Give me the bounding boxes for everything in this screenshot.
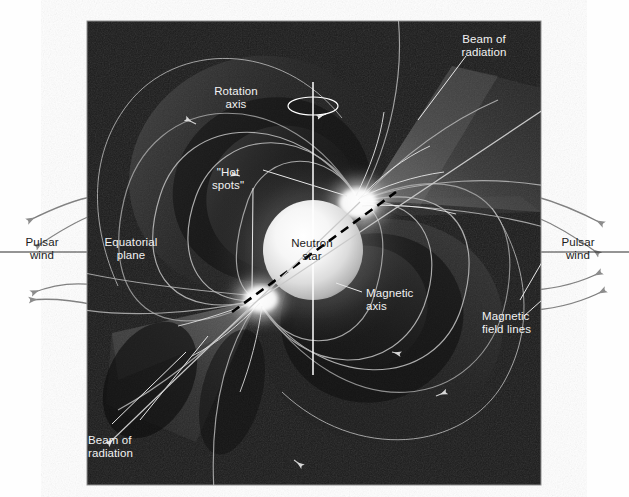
label-magnetic-axis: Magnetic axis (366, 287, 413, 313)
label-pulsar-wind-left: Pulsar wind (12, 236, 72, 262)
label-equatorial-plane: Equatorial plane (92, 236, 170, 262)
label-rotation-axis: Rotation axis (197, 85, 275, 111)
label-pulsar-wind-right: Pulsar wind (548, 236, 608, 262)
label-neutron-star: Neutron star (277, 237, 347, 263)
label-hot-spots: "Hot spots" (194, 166, 262, 192)
label-beam-of-radiation-bottom: Beam of radiation (88, 434, 133, 460)
label-beam-of-radiation-top: Beam of radiation (445, 33, 523, 59)
label-magnetic-field-lines: Magnetic field lines (482, 310, 531, 336)
pulsar-diagram-figure: Beam of radiation Rotation axis "Hot spo… (0, 0, 629, 497)
